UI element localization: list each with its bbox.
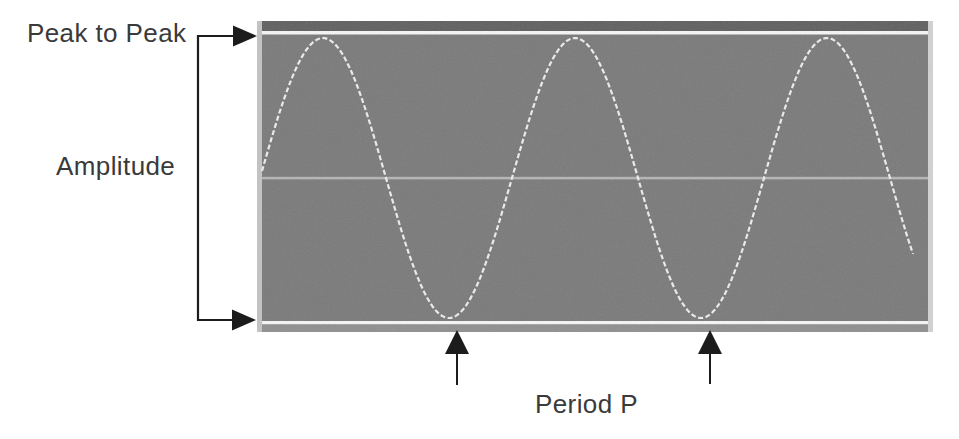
period-arrow-right-head-icon <box>698 330 722 354</box>
period-arrow-left-head-icon <box>445 330 469 354</box>
period-label: Period P <box>535 390 638 419</box>
scan-noise-texture <box>257 21 933 332</box>
bracket-bottom-arrowhead-icon <box>232 310 256 331</box>
peak-to-peak-bracket <box>198 36 240 320</box>
bracket-top-arrowhead-icon <box>233 26 257 47</box>
peak-to-peak-label: Peak to Peak <box>27 19 186 48</box>
amplitude-label: Amplitude <box>56 152 175 181</box>
sine-wave-diagram: Peak to Peak Amplitude Period P <box>0 0 959 439</box>
oscilloscope-screen <box>257 21 933 332</box>
